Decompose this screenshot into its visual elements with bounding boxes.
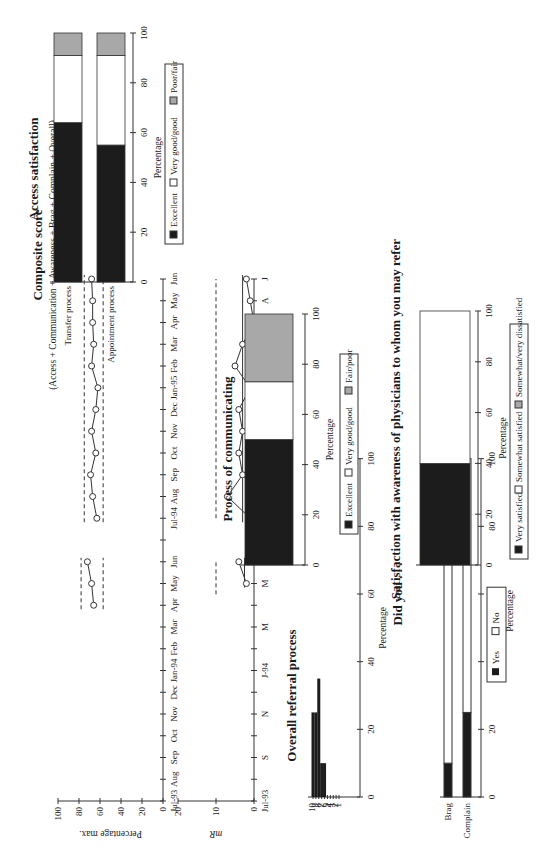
bar-segment <box>245 382 293 440</box>
svg-text:Very good/good: Very good/good <box>169 117 179 175</box>
svg-text:20: 20 <box>173 807 183 817</box>
svg-text:40: 40 <box>139 177 149 187</box>
month-tick-label: Oct <box>169 729 179 742</box>
referral-bar <box>312 712 315 797</box>
month-tick-label: Dec <box>169 685 179 700</box>
yes-segment <box>463 712 471 797</box>
data-point <box>236 407 242 413</box>
referral-title: Overall referral process <box>284 629 299 761</box>
data-point <box>89 428 95 434</box>
month-tick-label: Oct <box>169 446 179 459</box>
legend: ExcellentVery good/goodFair/poor <box>340 350 358 535</box>
month-tick-label: Feb <box>169 359 179 373</box>
svg-text:Excellent: Excellent <box>344 483 354 517</box>
svg-text:Transfer process: Transfer process <box>63 286 73 346</box>
month-tick-label: Sep <box>169 750 179 764</box>
month-tick-label: Mar <box>169 337 179 352</box>
svg-text:Very good/good: Very good/good <box>344 407 354 465</box>
data-point <box>236 450 242 456</box>
svg-text:60: 60 <box>366 589 376 599</box>
svg-text:80: 80 <box>366 521 376 531</box>
svg-text:0: 0 <box>366 794 376 799</box>
svg-text:100: 100 <box>484 304 494 318</box>
month-tick-label: Sep <box>169 468 179 482</box>
data-point <box>91 341 97 347</box>
bar-segment <box>97 33 125 55</box>
month-tick-label: Apr <box>169 316 179 330</box>
month-tick-label: Nov <box>169 706 179 722</box>
awareness-satisfaction-chart: Satisfaction with awareness of physician… <box>388 239 528 599</box>
data-point <box>93 450 99 456</box>
svg-text:60: 60 <box>95 807 105 817</box>
svg-text:Somewhat/very dissatisfied: Somewhat/very dissatisfied <box>514 297 524 397</box>
month-tick-label: Dec <box>169 402 179 417</box>
month-tick-label: Mar <box>169 620 179 635</box>
yes-segment <box>444 763 452 797</box>
svg-text:Process of communicating: Process of communicating <box>220 376 235 521</box>
data-point <box>89 581 95 587</box>
svg-text:1: 1 <box>333 803 343 808</box>
month-tick-label: Jan-95 <box>169 375 179 399</box>
svg-text:N: N <box>260 710 270 717</box>
data-point <box>95 385 101 391</box>
svg-text:M: M <box>260 579 270 587</box>
month-tick-label: Jun <box>169 272 179 285</box>
svg-text:0: 0 <box>487 794 497 799</box>
figure-svg: Composite score (Access + Communication … <box>0 0 554 849</box>
month-tick-label: Nov <box>169 423 179 439</box>
svg-text:80: 80 <box>487 521 497 531</box>
month-tick-label: Jan-94 <box>169 658 179 682</box>
svg-text:60: 60 <box>311 409 321 419</box>
composite-chart: Jul-93AugSepOctNovDecJan-94FebMarAprMayJ… <box>53 272 179 839</box>
svg-text:40: 40 <box>366 657 376 667</box>
referral-bar <box>320 763 323 797</box>
month-tick-label: Feb <box>169 642 179 656</box>
svg-text:Fair/poor: Fair/poor <box>344 350 354 384</box>
svg-text:80: 80 <box>484 357 494 367</box>
svg-text:60: 60 <box>484 408 494 418</box>
data-point <box>232 363 238 369</box>
svg-text:80: 80 <box>311 359 321 369</box>
data-point <box>247 298 253 304</box>
svg-text:20: 20 <box>139 227 149 237</box>
svg-text:100: 100 <box>139 26 149 40</box>
svg-text:J: J <box>260 277 270 281</box>
data-point <box>84 559 90 565</box>
data-point <box>243 276 249 282</box>
data-point <box>91 602 97 608</box>
data-point <box>90 494 96 500</box>
svg-text:20: 20 <box>484 509 494 519</box>
svg-text:0: 0 <box>249 807 259 812</box>
data-point <box>243 581 249 587</box>
month-tick-label: Jul-94 <box>169 507 179 530</box>
bar-segment <box>245 314 293 382</box>
svg-text:10: 10 <box>211 807 221 817</box>
svg-text:40: 40 <box>311 460 321 470</box>
data-point <box>89 363 95 369</box>
svg-text:A: A <box>260 297 270 304</box>
composite-ylabel: Percentage max. <box>79 829 142 839</box>
svg-text:S: S <box>260 755 270 760</box>
data-point <box>236 559 242 565</box>
data-point <box>93 407 99 413</box>
svg-text:Somewhat satisfied: Somewhat satisfied <box>514 411 524 482</box>
svg-text:60: 60 <box>139 128 149 138</box>
svg-text:0: 0 <box>311 562 321 567</box>
bar-segment <box>420 311 470 463</box>
svg-text:20: 20 <box>366 724 376 734</box>
svg-text:40: 40 <box>116 807 126 817</box>
month-tick-label: May <box>169 292 179 309</box>
legend: ExcellentVery good/goodPoor/fair <box>165 61 183 244</box>
referral-bar <box>323 763 326 797</box>
svg-text:100: 100 <box>366 451 376 465</box>
referral-bar <box>314 712 317 797</box>
svg-text:Percentage: Percentage <box>153 137 163 179</box>
did-you-legend: YesNo <box>487 587 506 682</box>
bar-segment <box>97 145 125 282</box>
svg-text:Complain: Complain <box>462 803 472 839</box>
month-tick-label: Aug <box>169 771 179 787</box>
svg-text:0: 0 <box>158 807 168 812</box>
legend: Very satisfiedSomewhat satisfiedSomewhat… <box>510 297 528 559</box>
svg-text:Brag: Brag <box>443 803 453 821</box>
svg-text:0: 0 <box>139 279 149 284</box>
